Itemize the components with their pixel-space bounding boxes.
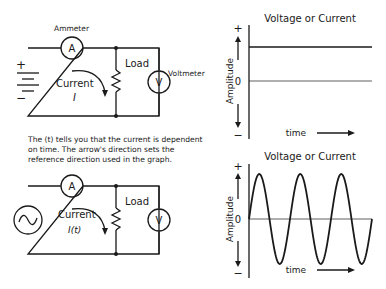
x-axis-label: time bbox=[286, 265, 307, 275]
y-axis-label: Amplitude bbox=[225, 195, 235, 242]
y-axis-label: Amplitude bbox=[225, 57, 235, 104]
resistor-icon bbox=[112, 70, 120, 92]
x-axis-label: time bbox=[286, 128, 307, 138]
ammeter-symbol: A bbox=[69, 43, 76, 54]
explanation-caption: The (t) tells you that the current is de… bbox=[28, 135, 203, 165]
y-tick-plus: + bbox=[233, 160, 242, 173]
ac-source-icon bbox=[14, 206, 42, 234]
dc-circuit bbox=[17, 37, 170, 116]
plus-sign: + bbox=[16, 58, 26, 72]
y-tick-plus: + bbox=[233, 22, 242, 35]
load-label: Load bbox=[125, 58, 149, 69]
ammeter-symbol: A bbox=[69, 181, 76, 192]
current-label: Current bbox=[56, 78, 94, 89]
ac-chart bbox=[235, 164, 372, 278]
chart-title: Voltage or Current bbox=[264, 151, 356, 162]
voltmeter-label: Voltmeter bbox=[168, 69, 206, 78]
chart-title: Voltage or Current bbox=[264, 13, 356, 24]
ammeter-label: Ammeter bbox=[54, 24, 90, 33]
current-label: Current bbox=[58, 209, 96, 220]
y-tick-minus: − bbox=[233, 267, 242, 280]
minus-sign: − bbox=[16, 91, 26, 105]
voltmeter-symbol: V bbox=[156, 77, 163, 88]
resistor-icon bbox=[112, 208, 120, 230]
y-tick-zero: 0 bbox=[235, 214, 241, 225]
dc-chart bbox=[235, 25, 372, 139]
y-tick-zero: 0 bbox=[235, 76, 241, 87]
current-symbol: I bbox=[73, 92, 76, 103]
voltmeter-symbol: V bbox=[156, 215, 163, 226]
current-symbol: I(t) bbox=[68, 225, 81, 235]
load-label: Load bbox=[125, 196, 149, 207]
y-tick-minus: − bbox=[233, 129, 242, 142]
